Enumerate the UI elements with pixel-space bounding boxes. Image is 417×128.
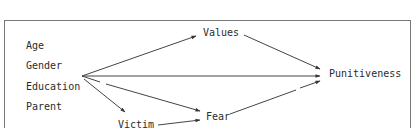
node-punitiveness: Punitiveness bbox=[329, 68, 401, 80]
node-age: Age bbox=[26, 40, 44, 52]
edge-predictors-victim bbox=[84, 79, 125, 112]
path-diagram: Age Gender Education Parent Values Fear … bbox=[0, 0, 417, 128]
edge-values-punitiveness bbox=[244, 35, 320, 69]
node-gender: Gender bbox=[26, 60, 62, 72]
node-parent: Parent bbox=[26, 101, 62, 113]
node-fear: Fear bbox=[206, 111, 230, 123]
node-victim: Victim bbox=[118, 119, 154, 128]
edge-fear-punitiveness-b bbox=[300, 81, 320, 88]
edge-victim-fear bbox=[158, 120, 200, 125]
edge-fear-punitiveness-a bbox=[230, 90, 296, 114]
node-education: Education bbox=[26, 81, 80, 93]
edge-predictors-fear-b bbox=[106, 84, 200, 111]
node-values: Values bbox=[203, 27, 239, 39]
diagram-arrows bbox=[0, 0, 417, 128]
edge-predictors-values bbox=[82, 36, 196, 76]
